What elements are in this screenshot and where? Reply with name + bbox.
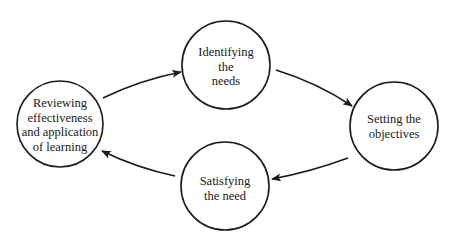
label-line: effectiveness <box>22 111 99 126</box>
label-line: of learning <box>22 140 99 155</box>
arrow-setting-to-satisfy <box>272 158 348 179</box>
node-identifying-label: Identifying the needs <box>198 45 254 89</box>
node-satisfying-label: Satisfying the need <box>200 174 251 203</box>
node-reviewing-label: Reviewing effectiveness and application … <box>22 96 99 154</box>
label-line: and application <box>22 125 99 140</box>
label-line: Reviewing <box>22 96 99 111</box>
label-line: the need <box>200 188 251 203</box>
arrow-review-to-identify <box>103 72 181 98</box>
label-line: Identifying <box>198 45 254 60</box>
node-setting-label: Setting the objectives <box>367 112 421 141</box>
label-line: objectives <box>367 126 421 141</box>
arrow-satisfy-to-review <box>102 151 175 176</box>
label-line: Satisfying <box>200 174 251 189</box>
label-line: the <box>198 60 254 75</box>
label-line: needs <box>198 74 254 89</box>
arrow-identify-to-setting <box>276 70 352 106</box>
label-line: Setting the <box>367 112 421 127</box>
